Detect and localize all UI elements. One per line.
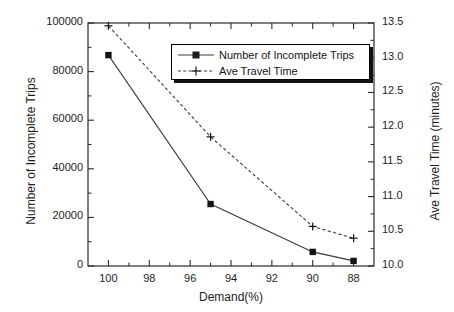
y-right-tick-label-11.5: 11.5 bbox=[382, 154, 422, 166]
legend-item-incomplete-trips: Number of Incomplete Trips bbox=[176, 47, 365, 63]
y-left-tick-label-0: 0 bbox=[20, 258, 83, 270]
y-left-tick-label-80000: 80000 bbox=[20, 64, 83, 76]
chart-legend: Number of Incomplete Trips Ave Travel Ti… bbox=[171, 44, 370, 80]
y-right-tick-label-12.5: 12.5 bbox=[382, 84, 422, 96]
y-left-tick-label-40000: 40000 bbox=[20, 161, 83, 173]
y-left-tick-label-100000: 100000 bbox=[20, 15, 83, 27]
legend-label-ave-travel-time: Ave Travel Time bbox=[216, 65, 298, 77]
y-right-tick-label-10.5: 10.5 bbox=[382, 223, 422, 235]
series-number-of-incomplete-trips bbox=[105, 52, 357, 264]
legend-label-incomplete-trips: Number of Incomplete Trips bbox=[216, 49, 354, 61]
y-right-tick-label-13.0: 13.0 bbox=[382, 50, 422, 62]
legend-marker-plus bbox=[176, 64, 216, 78]
x-tick-label-88: 88 bbox=[329, 272, 379, 284]
y-right-tick-label-11.0: 11.0 bbox=[382, 189, 422, 201]
x-axis-title: Demand(%) bbox=[88, 290, 374, 304]
y-left-tick-label-60000: 60000 bbox=[20, 112, 83, 124]
y-right-tick-label-13.5: 13.5 bbox=[382, 15, 422, 27]
y-left-tick-label-20000: 20000 bbox=[20, 209, 83, 221]
chart-figure: Number of Incomplete Trips Ave Travel Ti… bbox=[0, 0, 454, 312]
y-right-tick-label-10.0: 10.0 bbox=[382, 258, 422, 270]
y-right-tick-label-12.0: 12.0 bbox=[382, 119, 422, 131]
y-axis-right-title: Ave Travel Time (minutes) bbox=[428, 41, 442, 261]
legend-marker-square bbox=[176, 48, 216, 62]
legend-item-ave-travel-time: Ave Travel Time bbox=[176, 63, 365, 79]
